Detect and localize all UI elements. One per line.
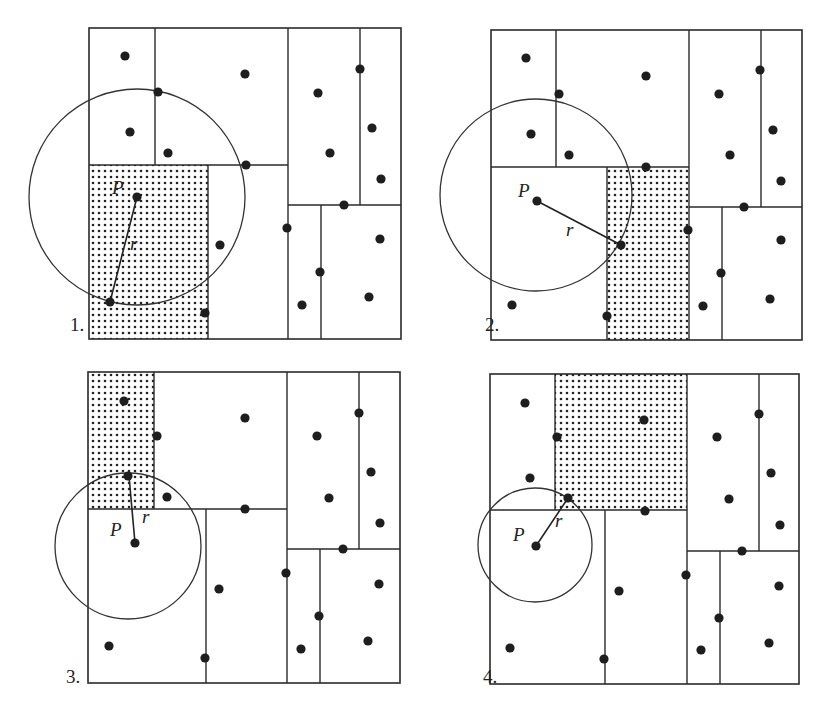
data-point — [339, 200, 348, 209]
data-point — [521, 53, 530, 62]
data-point — [766, 468, 775, 477]
data-point — [354, 408, 363, 417]
radius-label: r — [130, 233, 138, 254]
data-point — [123, 471, 132, 480]
data-point — [774, 581, 783, 590]
data-point — [315, 267, 324, 276]
shaded-region — [607, 167, 688, 340]
data-point — [696, 645, 705, 654]
data-point — [374, 579, 383, 588]
data-point — [376, 174, 385, 183]
data-point — [563, 493, 572, 502]
data-point — [240, 504, 249, 513]
data-point — [367, 123, 376, 132]
query-point-label: P — [517, 180, 530, 201]
panel-3: Pr3. — [55, 372, 400, 687]
data-point — [712, 432, 721, 441]
data-point — [507, 300, 516, 309]
data-point — [240, 413, 249, 422]
data-point — [325, 148, 334, 157]
query-point-label: P — [111, 177, 124, 198]
data-point — [602, 311, 611, 320]
data-point — [314, 611, 323, 620]
panel-4: Pr4. — [478, 374, 799, 687]
data-point — [240, 69, 249, 78]
query-point-label: P — [512, 524, 525, 545]
data-point — [153, 87, 162, 96]
data-point — [520, 398, 529, 407]
data-point — [364, 292, 373, 301]
data-point — [775, 520, 784, 529]
data-point — [526, 129, 535, 138]
data-point — [765, 294, 774, 303]
data-point — [505, 643, 514, 652]
shaded-region — [555, 374, 687, 510]
data-point — [125, 127, 134, 136]
query-point-P — [132, 192, 141, 201]
data-point — [162, 492, 171, 501]
data-point — [120, 51, 129, 60]
data-point — [614, 586, 623, 595]
data-point — [725, 150, 734, 159]
data-point — [616, 240, 625, 249]
data-point — [375, 234, 384, 243]
data-point — [683, 225, 692, 234]
query-point-P — [531, 541, 540, 550]
kd-tree-nearest-neighbor-figure: Pr1.Pr2.Pr3.Pr4. — [0, 0, 829, 707]
data-point — [375, 518, 384, 527]
data-point — [776, 176, 785, 185]
data-point — [754, 409, 763, 418]
data-point — [312, 431, 321, 440]
data-point — [152, 431, 161, 440]
data-point — [200, 653, 209, 662]
data-point — [640, 506, 649, 515]
data-point — [764, 638, 773, 647]
search-circle — [440, 99, 632, 291]
shaded-region — [88, 372, 154, 509]
panel-number-label: 4. — [483, 666, 497, 687]
query-point-P — [130, 538, 139, 547]
radius-label: r — [555, 510, 563, 531]
data-point — [282, 223, 291, 232]
data-point — [755, 65, 764, 74]
data-point — [776, 235, 785, 244]
query-point-P — [532, 196, 541, 205]
data-point — [214, 584, 223, 593]
data-point — [716, 268, 725, 277]
data-point — [355, 64, 364, 73]
data-point — [296, 644, 305, 653]
data-point — [215, 240, 224, 249]
panel-1: Pr1. — [29, 28, 401, 339]
query-point-label: P — [109, 519, 122, 540]
data-point — [366, 467, 375, 476]
data-point — [297, 300, 306, 309]
data-point — [525, 473, 534, 482]
data-point — [119, 396, 128, 405]
data-point — [281, 568, 290, 577]
panel-2: Pr2. — [440, 30, 802, 340]
data-point — [739, 202, 748, 211]
data-point — [724, 494, 733, 503]
data-point — [564, 150, 573, 159]
data-point — [324, 493, 333, 502]
panel-number-label: 1. — [70, 314, 84, 335]
data-point — [599, 654, 608, 663]
data-point — [163, 148, 172, 157]
data-point — [698, 301, 707, 310]
radius-line — [536, 498, 568, 546]
data-point — [641, 71, 650, 80]
radius-label: r — [566, 219, 574, 240]
data-point — [338, 544, 347, 553]
data-point — [313, 88, 322, 97]
data-point — [552, 432, 561, 441]
data-point — [714, 613, 723, 622]
panel-number-label: 3. — [66, 666, 80, 687]
data-point — [641, 162, 650, 171]
data-point — [714, 89, 723, 98]
data-point — [241, 160, 250, 169]
data-point — [105, 297, 114, 306]
data-point — [737, 546, 746, 555]
shaded-region — [89, 165, 208, 339]
data-point — [200, 308, 209, 317]
data-point — [681, 570, 690, 579]
